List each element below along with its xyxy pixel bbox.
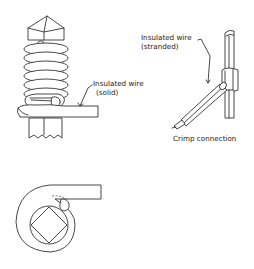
caption-crimp-connection: Crimp connection [173, 134, 236, 143]
crimp-terminal [222, 30, 238, 118]
crimp-connection-view: Insulated wire (stranded) Crimp connecti… [141, 30, 238, 143]
stranded-wire [172, 81, 228, 129]
wire-coil [24, 41, 68, 108]
leader-line-stranded [198, 39, 210, 83]
wire-end-hook [60, 199, 69, 211]
wire-connection-diagram: Insulated wire (solid) In [0, 0, 254, 269]
label-insulated-wire-solid: Insulated wire [93, 79, 144, 88]
terminal-post-base [29, 118, 62, 138]
wire-wrap-side-view: Insulated wire (solid) [17, 16, 144, 138]
label-stranded: (stranded) [141, 42, 179, 51]
label-solid: (solid) [96, 88, 119, 97]
wire-wrap-top-view [16, 185, 101, 252]
solid-wire-lead [17, 105, 98, 117]
label-insulated-wire-stranded: Insulated wire [141, 33, 192, 42]
terminal-post-tip [28, 16, 64, 40]
leader-line-solid [80, 85, 92, 106]
